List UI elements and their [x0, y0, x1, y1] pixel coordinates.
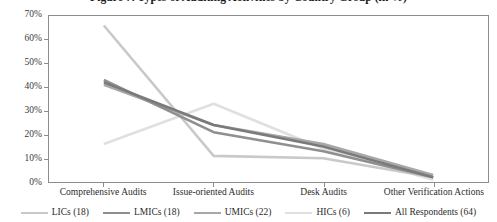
x-axis-labels: Comprehensive AuditsIssue-oriented Audit… — [0, 186, 497, 200]
legend-item[interactable]: HICs (6) — [285, 208, 350, 218]
series-line — [104, 82, 433, 177]
legend-item[interactable]: UMICs (22) — [194, 208, 272, 218]
series-lines — [49, 16, 488, 182]
legend-color-swatch — [285, 212, 312, 215]
legend-label: All Respondents (64) — [395, 208, 476, 218]
legend-color-swatch — [103, 212, 130, 215]
y-axis-tick-label: 70% — [25, 10, 42, 20]
legend-color-swatch — [364, 212, 391, 215]
x-axis-category-label: Comprehensive Audits — [60, 186, 147, 199]
y-axis-tick-label: 10% — [25, 154, 42, 164]
y-axis-tick-label: 60% — [25, 34, 42, 44]
y-axis-tick-label: 50% — [25, 58, 42, 68]
chart-container: Figure 7. Types of Auditing Activities b… — [0, 0, 497, 222]
legend-label: UMICs (22) — [225, 208, 272, 218]
legend-color-swatch — [194, 212, 221, 215]
series-line — [104, 85, 433, 175]
legend-item[interactable]: All Respondents (64) — [364, 208, 476, 218]
legend-label: LMICs (18) — [134, 208, 180, 218]
chart-title-strip: Figure 7. Types of Auditing Activities b… — [0, 0, 497, 8]
plot-area — [48, 15, 489, 183]
legend-item[interactable]: LICs (18) — [21, 208, 89, 218]
legend-label: LICs (18) — [52, 208, 89, 218]
y-axis-tick-label: 40% — [25, 82, 42, 92]
chart-title: Figure 7. Types of Auditing Activities b… — [90, 0, 407, 3]
chart-legend: LICs (18)LMICs (18)UMICs (22)HICs (6)All… — [0, 204, 497, 222]
y-axis-tick-label: 20% — [25, 130, 42, 140]
y-axis-tick-label: 30% — [25, 106, 42, 116]
x-axis-category-label: Other Verification Actions — [384, 186, 484, 199]
x-axis-category-label: Issue-oriented Audits — [173, 186, 254, 199]
legend-color-swatch — [21, 212, 48, 215]
legend-item[interactable]: LMICs (18) — [103, 208, 180, 218]
legend-label: HICs (6) — [316, 208, 350, 218]
x-axis-category-label: Desk Audits — [300, 186, 347, 199]
